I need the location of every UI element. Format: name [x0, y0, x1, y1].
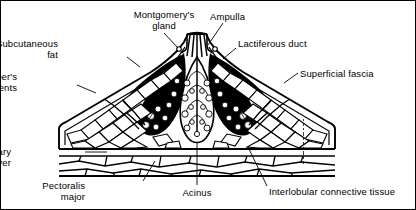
label-superficial-fascia: Superficial fascia [300, 68, 374, 79]
nipple-duct-orifices [187, 35, 207, 58]
label-ampulla: Ampulla [210, 11, 245, 22]
label-lactiferous-duct: Lactiferous duct [238, 38, 307, 49]
leader-interlobular-connective-tissue [248, 147, 267, 186]
label-acinus: Acinus [182, 187, 211, 198]
label-subcutaneous-fat: Subcutaneous fat [0, 38, 58, 60]
leader-montgomerys-gland [164, 33, 178, 48]
label-interlobular-connective-tissue: Interlobular connective tissue [269, 186, 395, 197]
leader-ampulla [208, 23, 223, 45]
breast-anatomy-figure: Montgomery's glandAmpullaSubcutaneous fa… [0, 0, 416, 210]
label-pectoralis-major: Pectoralis major [42, 180, 85, 202]
leader-subcutaneous-fat [127, 57, 140, 67]
label-coopers-ligaments: Cooper's ligaments [0, 71, 17, 93]
leader-lactiferous-duct [223, 48, 236, 59]
label-retromammary-layer: Retromammary layer [0, 146, 11, 168]
leader-superficial-fascia [284, 73, 298, 83]
breast-cross-section-illustration [1, 1, 416, 210]
leader-coopers-ligaments [77, 85, 96, 93]
label-montgomerys-gland: Montgomery's gland [134, 9, 195, 31]
